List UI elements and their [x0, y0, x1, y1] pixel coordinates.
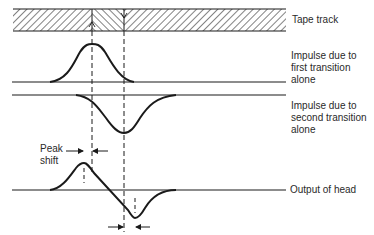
- impulse-second-label: Impulse due to second transition alone: [291, 100, 367, 136]
- impulse-first-label: Impulse due to first transition alone: [291, 50, 357, 86]
- tape-track-label: Tape track: [292, 14, 338, 26]
- peak-shift-label: Peak shift: [40, 143, 63, 167]
- output-label: Output of head: [290, 184, 356, 196]
- second-impulse-plot: [12, 95, 286, 133]
- tape-track: [13, 9, 286, 31]
- first-impulse-plot: [12, 44, 286, 82]
- output-plot: [12, 163, 286, 218]
